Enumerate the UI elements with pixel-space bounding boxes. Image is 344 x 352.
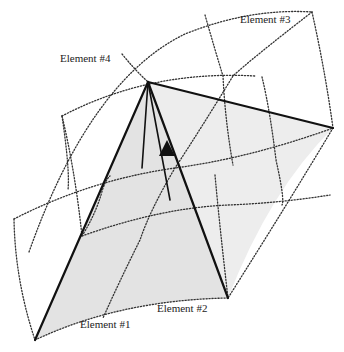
label-element-2: Element #2 — [157, 302, 207, 314]
label-element-4: Element #4 — [60, 52, 111, 64]
diagram-canvas: Element #4 Element #3 Element #1 Element… — [0, 0, 344, 352]
grid-radial-8 — [62, 116, 68, 190]
label-element-3: Element #3 — [240, 13, 291, 25]
label-element-1: Element #1 — [80, 318, 130, 330]
grid-radial-4 — [312, 12, 333, 128]
curved-element-mesh-diagram: Element #4 Element #3 Element #1 Element… — [0, 0, 344, 352]
grid-radial-left-outer — [14, 219, 35, 340]
grid-radial-1 — [122, 54, 148, 82]
